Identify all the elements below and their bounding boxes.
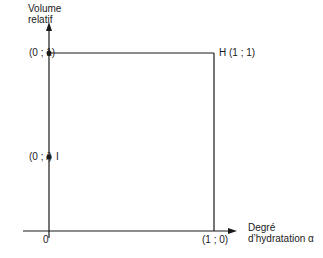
point-0-1-label: (0 ; 1) [29, 47, 55, 58]
y-axis-label: Volume relatif [28, 3, 61, 25]
point-1-0-label: (1 ; 0) [202, 234, 228, 245]
point-0-i-label: (0 ; i) [29, 151, 52, 162]
origin-label: 0 [43, 234, 49, 245]
point-I-name: I [56, 151, 59, 162]
x-axis-label: Degré d’hydratation α [248, 222, 314, 244]
x-axis-label-line2: d’hydratation α [248, 233, 314, 244]
point-H-label: H (1 ; 1) [219, 47, 255, 58]
y-axis-label-line2: relatif [28, 14, 61, 25]
diagram-canvas [0, 0, 323, 258]
x-axis-arrow-icon [228, 228, 237, 234]
x-axis-label-line1: Degré [248, 222, 314, 233]
y-axis-label-line1: Volume [28, 3, 61, 14]
